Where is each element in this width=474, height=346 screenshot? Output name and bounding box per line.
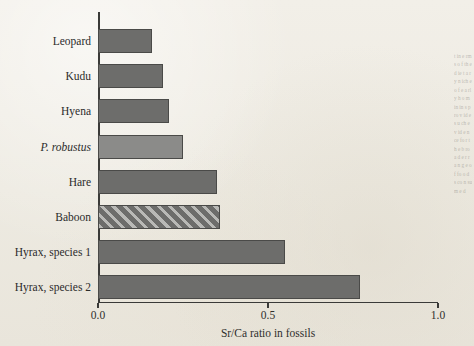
x-tick-1 [267,303,268,308]
bar-p-robustus [98,135,183,159]
x-tick-label-0: 0.0 [91,309,106,321]
bar-hyena [98,99,169,123]
bar-row: Hare [98,170,438,194]
bar-row: Kudu [98,64,438,88]
bar-chart-figure: 0.00.51.0 LeopardKuduHyenaP. robustusHar… [0,0,474,346]
x-tick-0 [97,303,98,308]
bar-category-label: Hare [69,176,91,188]
bar-row: Hyrax, species 1 [98,240,438,264]
bar-category-label: Hyena [61,105,91,117]
bar-category-label: Hyrax, species 2 [15,281,91,293]
bar-row: P. robustus [98,135,438,159]
bar-category-label: Hyrax, species 1 [15,246,91,258]
bar-category-label: Leopard [53,35,91,47]
bar-hare [98,170,217,194]
bar-hyrax-species-1 [98,240,285,264]
bar-row: Hyena [98,99,438,123]
bar-row: Hyrax, species 2 [98,275,438,299]
bar-category-label: P. robustus [41,141,92,153]
bar-leopard [98,29,152,53]
bars-layer: LeopardKuduHyenaP. robustusHareBaboonHyr… [98,12,438,303]
bar-baboon [98,205,220,229]
bar-kudu [98,64,163,88]
x-tick-label-2: 1.0 [431,309,446,321]
x-tick-label-1: 0.5 [261,309,276,321]
x-axis-title: Sr/Ca ratio in fossils [221,327,315,339]
x-tick-2 [437,303,438,308]
bar-hyrax-species-2 [98,275,360,299]
bar-category-label: Kudu [65,70,91,82]
bar-row: Baboon [98,205,438,229]
plot-area: 0.00.51.0 LeopardKuduHyenaP. robustusHar… [98,12,438,303]
bar-category-label: Baboon [55,211,91,223]
bar-row: Leopard [98,29,438,53]
